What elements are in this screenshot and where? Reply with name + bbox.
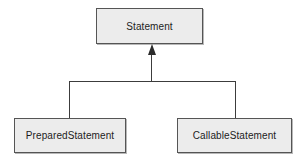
class-name-prepared-statement: PreparedStatement	[26, 130, 114, 141]
generalization-arrowhead-icon	[148, 44, 156, 55]
class-box-statement[interactable]: Statement	[96, 8, 203, 44]
class-diagram-canvas: Statement PreparedStatement CallableStat…	[0, 0, 300, 165]
class-name-callable-statement: CallableStatement	[193, 130, 276, 141]
generalization-stem-line	[151, 54, 152, 82]
generalization-drop-line-left	[69, 81, 70, 119]
class-box-prepared-statement[interactable]: PreparedStatement	[14, 118, 126, 153]
class-name-statement: Statement	[126, 21, 172, 32]
class-box-callable-statement[interactable]: CallableStatement	[177, 118, 292, 153]
generalization-crossbar-line	[69, 81, 236, 82]
generalization-drop-line-right	[235, 81, 236, 119]
